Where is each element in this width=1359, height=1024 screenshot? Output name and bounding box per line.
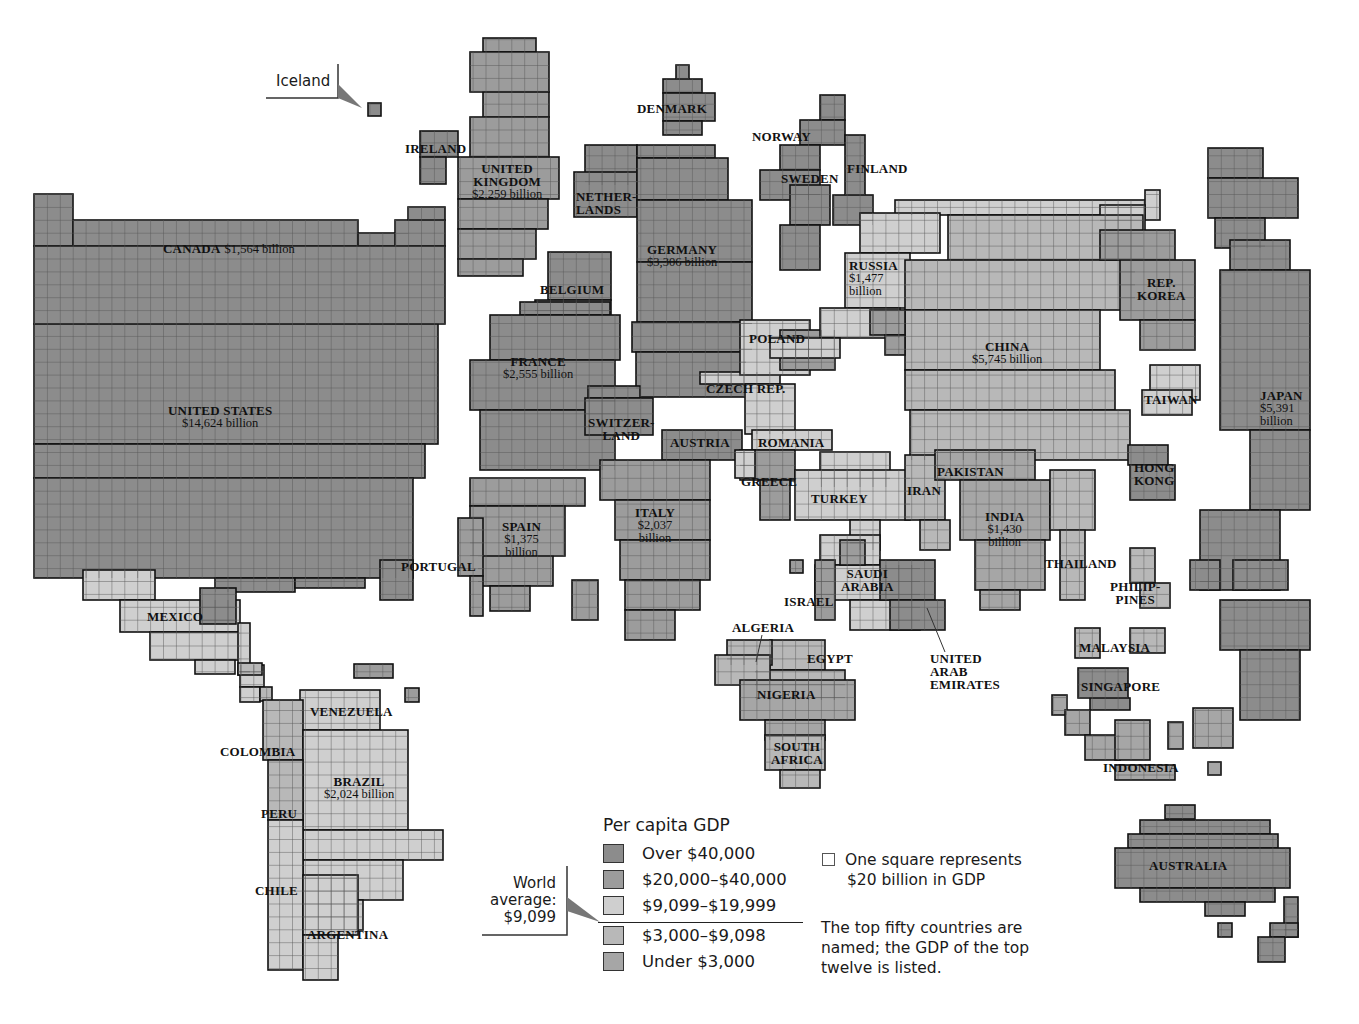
legend-swatch-3000-9098 <box>603 926 624 945</box>
top-note-line3: twelve is listed. <box>821 958 1029 978</box>
label-singapore: SINGAPORE <box>1081 678 1160 694</box>
legend-world-average-divider <box>598 922 803 923</box>
legend-label: $3,000–$9,098 <box>642 926 766 945</box>
label-saudi-arabia: SAUDIARABIA <box>841 567 893 593</box>
legend-title: Per capita GDP <box>603 815 787 835</box>
label-belgium: BELGIUM <box>540 281 604 297</box>
legend-item-under-3000: Under $3,000 <box>603 948 787 974</box>
label-india: INDIA$1,430billion <box>985 510 1024 548</box>
label-portugal: PORTUGAL <box>401 558 476 574</box>
label-canada: CANADA $1,564 billion <box>163 240 295 256</box>
label-spain: SPAIN$1,375billion <box>502 520 541 558</box>
label-pakistan: PAKISTAN <box>937 463 1004 479</box>
legend-item-3000-9098: $3,000–$9,098 <box>603 922 787 948</box>
square-note-line2: $20 billion in GDP <box>822 870 1022 890</box>
label-philippines: PHILIP-PINES <box>1110 580 1161 606</box>
square-note: One square represents $20 billion in GDP <box>822 850 1022 890</box>
label-israel: ISRAEL <box>784 593 834 609</box>
label-peru: PERU <box>261 805 297 821</box>
label-malaysia: MALAYSIA <box>1079 639 1150 655</box>
label-russia: RUSSIA$1,477billion <box>849 259 898 297</box>
label-china: CHINA$5,745 billion <box>972 340 1042 366</box>
label-nigeria: NIGERIA <box>757 686 815 702</box>
legend-label: Under $3,000 <box>642 952 755 971</box>
legend-label: $9,099–$19,999 <box>642 896 776 915</box>
label-iran: IRAN <box>907 482 941 498</box>
label-chile: CHILE <box>255 882 298 898</box>
label-netherlands: NETHER-LANDS <box>576 190 637 216</box>
top-countries-note: The top fifty countries are named; the G… <box>821 918 1029 978</box>
label-argentina: ARGENTINA <box>307 926 388 942</box>
legend-item-over-40000: Over $40,000 <box>603 840 787 866</box>
label-korea: REP.KOREA <box>1137 276 1186 302</box>
label-united-states: UNITED STATES$14,624 billion <box>168 404 272 430</box>
legend-swatch-over-40000 <box>603 844 624 863</box>
label-italy: ITALY$2,037billion <box>635 506 675 544</box>
legend-swatch-9099-19999 <box>603 896 624 915</box>
label-switzerland: SWITZER-LAND <box>588 416 655 442</box>
square-note-line1: One square represents <box>845 851 1022 869</box>
label-south-africa: SOUTHAFRICA <box>771 740 823 766</box>
legend-item-20000-40000: $20,000–$40,000 <box>603 866 787 892</box>
label-sweden: SWEDEN <box>781 170 839 186</box>
label-turkey: TURKEY <box>811 490 868 506</box>
label-germany: GERMANY$3,306 billion <box>647 243 717 269</box>
label-japan: JAPAN$5,391billion <box>1260 389 1303 427</box>
label-indonesia: INDONESIA <box>1103 759 1178 775</box>
label-colombia: COLOMBIA <box>220 743 295 759</box>
label-algeria: ALGERIA <box>732 619 794 635</box>
legend-swatch-20000-40000 <box>603 870 624 889</box>
label-united-kingdom: UNITEDKINGDOM$2,259 billion <box>472 162 542 201</box>
label-france: FRANCE$2,555 billion <box>503 355 573 381</box>
top-note-line2: named; the GDP of the top <box>821 938 1029 958</box>
legend-item-9099-19999: $9,099–$19,999 <box>603 892 787 918</box>
world-average-callout: World average: $9,099 <box>490 875 556 926</box>
label-egypt: EGYPT <box>807 650 853 666</box>
label-australia: AUSTRALIA <box>1149 857 1227 873</box>
label-ireland: IRELAND <box>405 140 466 156</box>
square-icon <box>822 853 835 866</box>
label-venezuela: VENEZUELA <box>310 703 393 719</box>
label-norway: NORWAY <box>752 128 811 144</box>
label-mexico: MEXICO <box>147 608 203 624</box>
label-czech-republic: CZECH REP. <box>706 380 786 396</box>
world-average-line1: World <box>490 875 556 892</box>
legend-label: $20,000–$40,000 <box>642 870 787 889</box>
label-greece: GREECE <box>741 473 797 489</box>
label-denmark: DENMARK <box>637 100 707 116</box>
label-finland: FINLAND <box>847 160 908 176</box>
label-brazil: BRAZIL$2,024 billion <box>324 775 394 801</box>
legend-label: Over $40,000 <box>642 844 755 863</box>
world-average-line2: average: <box>490 892 556 909</box>
top-note-line1: The top fifty countries are <box>821 918 1029 938</box>
world-average-value: $9,099 <box>490 909 556 926</box>
label-taiwan: TAIWAN <box>1144 391 1198 407</box>
legend: Per capita GDP Over $40,000 $20,000–$40,… <box>603 815 787 974</box>
legend-swatch-under-3000 <box>603 952 624 971</box>
label-austria: AUSTRIA <box>670 434 730 450</box>
label-uae: UNITEDARABEMIRATES <box>930 652 1000 691</box>
label-poland: POLAND <box>749 330 805 346</box>
label-thailand: THAILAND <box>1045 555 1117 571</box>
label-hong-kong: HONGKONG <box>1134 461 1175 487</box>
iceland-callout-label: Iceland <box>276 72 330 90</box>
label-romania: ROMANIA <box>758 434 824 450</box>
